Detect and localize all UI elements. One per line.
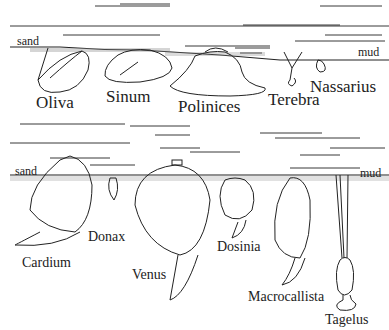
oliva-shell-drawing <box>38 48 89 93</box>
mud-label-bottom: mud <box>360 167 381 179</box>
oliva-label: Oliva <box>36 94 74 111</box>
polinices-label: Polinices <box>178 98 240 115</box>
burrowing-mollusks-diagram: sand mud Oliva Sinum Polinices Terebra N… <box>0 0 389 330</box>
water-lines-bottom <box>10 124 385 168</box>
sand-label-bottom: sand <box>15 165 37 177</box>
donax-label: Donax <box>88 230 125 244</box>
donax-shell-drawing <box>109 178 118 200</box>
sinum-label: Sinum <box>106 88 150 105</box>
mud-label-top: mud <box>358 46 379 58</box>
tagelus-label: Tagelus <box>325 313 368 327</box>
dosinia-label: Dosinia <box>217 240 261 254</box>
line-drawing <box>0 0 389 330</box>
nassarius-shell-drawing <box>316 60 325 72</box>
dosinia-shell-drawing <box>220 178 254 238</box>
sand-label-top: sand <box>17 35 39 47</box>
tagelus-shell-drawing <box>336 175 356 310</box>
venus-label: Venus <box>132 268 166 282</box>
macrocallista-label: Macrocallista <box>248 290 324 304</box>
terebra-shell-drawing <box>284 52 302 86</box>
macrocallista-shell-drawing <box>275 178 311 285</box>
water-lines-top <box>10 4 389 53</box>
cardium-label: Cardium <box>22 256 71 270</box>
sinum-shell-drawing <box>105 50 172 83</box>
nassarius-label: Nassarius <box>310 78 376 95</box>
